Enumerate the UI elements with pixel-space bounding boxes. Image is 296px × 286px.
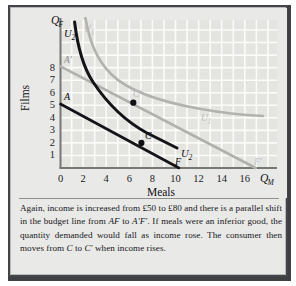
y-tick-3: 3 (50, 124, 55, 135)
y-tick-5: 5 (50, 99, 55, 110)
figure-root: 8 7 6 5 4 3 2 1 0 2 4 6 8 10 12 14 (0, 0, 296, 286)
x-tick-6: 6 (127, 173, 132, 184)
x-tick-10: 10 (170, 173, 181, 184)
caption-line-1: Again, income is increased from £50 to £… (20, 203, 233, 213)
y-tick-6: 6 (50, 87, 55, 98)
svg-text:1: 1 (91, 28, 95, 37)
indifference-curve-chart: 8 7 6 5 4 3 2 1 0 2 4 6 8 10 12 14 (11, 8, 287, 198)
x-tick-0: 0 (58, 173, 63, 184)
caption-line-4b: to (73, 243, 85, 253)
caption-line-5: income rises. (117, 243, 166, 253)
y-axis-variable: Q F (51, 14, 64, 29)
x-tick-4: 4 (104, 173, 110, 184)
frame-bottom-shadow (8, 277, 288, 281)
x-axis-variable: Q M (260, 172, 275, 187)
label-point-c: C (145, 130, 152, 141)
chart-panel: 8 7 6 5 4 3 2 1 0 2 4 6 8 10 12 14 (11, 8, 287, 198)
frame-right-shadow (288, 5, 291, 281)
svg-text:F: F (58, 20, 64, 29)
label-point-f-prime: F′ (253, 157, 263, 167)
x-tick-16: 16 (240, 173, 251, 184)
caption-line-2c: . If meals (147, 216, 182, 226)
caption-af-prime: A′F′ (132, 216, 147, 226)
y-tick-1: 1 (50, 149, 55, 160)
svg-text:2: 2 (72, 33, 76, 42)
x-tick-12: 12 (193, 173, 204, 184)
y-tick-8: 8 (50, 62, 55, 73)
y-axis-title: Films (19, 84, 31, 111)
svg-text:1: 1 (208, 117, 212, 126)
x-axis-title: Meals (147, 186, 176, 198)
y-tick-4: 4 (50, 112, 56, 123)
caption-line-4c: when (93, 243, 115, 253)
svg-text:2: 2 (189, 153, 193, 162)
caption-c-prime: C′ (84, 243, 92, 253)
caption-af: AF (108, 216, 119, 226)
y-tick-2: 2 (50, 137, 55, 148)
y-tick-7: 7 (50, 74, 55, 85)
x-tick-8: 8 (150, 173, 155, 184)
x-tick-14: 14 (216, 173, 227, 184)
label-point-a: A (63, 91, 71, 102)
label-point-a-prime: A′ (63, 55, 73, 65)
caption-divider (19, 198, 279, 199)
figure-caption: Again, income is increased from £50 to £… (20, 202, 282, 274)
point-c-prime-marker (130, 100, 136, 106)
svg-text:M: M (267, 178, 275, 187)
label-point-f: F (174, 156, 182, 167)
x-tick-2: 2 (80, 173, 85, 184)
caption-line-2b: to (120, 216, 132, 226)
figure-frame-inner: 8 7 6 5 4 3 2 1 0 2 4 6 8 10 12 14 (10, 7, 286, 275)
label-point-c-prime: C′ (133, 89, 142, 99)
point-c-marker (138, 140, 144, 146)
figure-frame: 8 7 6 5 4 3 2 1 0 2 4 6 8 10 12 14 (8, 5, 288, 277)
